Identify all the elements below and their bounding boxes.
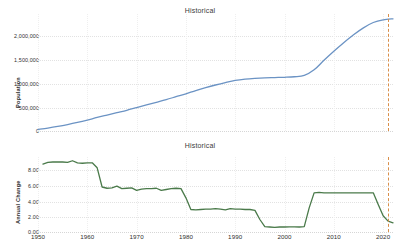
x-tick-2010: 2010: [327, 233, 341, 240]
population-plot-area: [38, 14, 393, 131]
chart-page: Historical Population 2,000,000 1,500,00…: [0, 0, 400, 251]
annual-change-chart-title: Historical: [0, 142, 400, 149]
annual-change-y-axis-label: Annual Change: [15, 180, 21, 224]
annual-change-line-series: [38, 157, 393, 232]
x-tick-1970: 1970: [130, 233, 144, 240]
x-tick-2020: 2020: [376, 233, 390, 240]
projection-marker-line: [388, 14, 389, 131]
x-axis-tick-labels: 1950 1960 1970 1980 1990 2000 2010 2020: [0, 233, 400, 245]
population-y-tick-1000000: 1,000,000: [14, 81, 39, 87]
x-tick-1960: 1960: [80, 233, 94, 240]
x-tick-2000: 2000: [277, 233, 291, 240]
x-tick-1990: 1990: [228, 233, 242, 240]
population-y-tick-2000000: 2,000,000: [14, 33, 39, 39]
projection-marker-line-bottom: [388, 157, 389, 232]
population-chart-panel: Historical Population 2,000,000 1,500,00…: [0, 0, 400, 136]
x-tick-1980: 1980: [179, 233, 193, 240]
x-tick-1950: 1950: [31, 233, 45, 240]
population-y-tick-500000: 500,000: [19, 105, 39, 111]
population-chart-title: Historical: [0, 7, 400, 14]
gridline-zero: [38, 131, 393, 132]
annual-change-plot-area: [38, 157, 393, 232]
population-line-series: [38, 14, 393, 131]
population-y-tick-1500000: 1,500,000: [14, 57, 39, 63]
